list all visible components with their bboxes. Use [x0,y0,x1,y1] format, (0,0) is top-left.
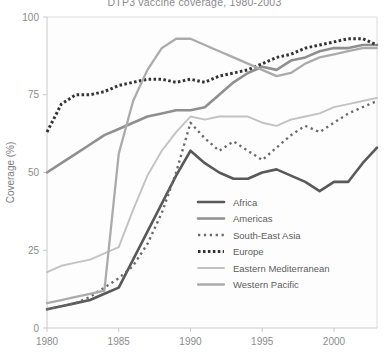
x-tick-label: 2000 [323,336,346,347]
x-tick-label: 1985 [108,336,131,347]
plot-background [47,17,377,328]
legend-label-africa: Africa [233,197,258,208]
y-tick-label: 0 [33,323,39,334]
y-tick-label: 25 [28,245,40,256]
legend-label-western-pacific: Western Pacific [233,279,299,290]
x-tick-label: 1980 [36,336,59,347]
y-tick-label: 75 [28,89,40,100]
plot-area [47,17,377,328]
y-axis-title: Coverage (%) [5,142,16,204]
y-tick-label: 50 [28,167,40,178]
x-tick-label: 1995 [251,336,274,347]
chart-container: DTP3 vaccine coverage, 1980-2003 0255075… [0,0,389,361]
legend-label-south-east-asia: South-East Asia [233,230,301,241]
line-chart-plot: 025507510019801985199019952000Coverage (… [0,0,389,361]
x-tick-label: 1990 [179,336,202,347]
legend-label-americas: Americas [233,213,273,224]
legend-label-eastern-mediterranean: Eastern Mediterranean [233,263,330,274]
legend-label-europe: Europe [233,246,264,257]
y-tick-label: 100 [22,12,39,23]
